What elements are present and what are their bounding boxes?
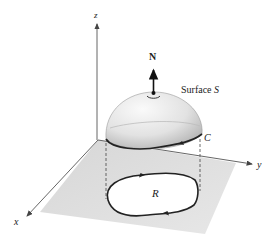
normal-vector-label: N — [149, 51, 157, 62]
surface-label-text: Surface — [181, 84, 214, 95]
region-label: R — [151, 187, 159, 199]
y-axis-label: y — [256, 159, 262, 170]
surface-s — [106, 92, 202, 149]
normal-vector — [152, 70, 156, 95]
surface-label: Surface S — [181, 84, 219, 95]
surface-label-symbol: S — [214, 84, 219, 95]
z-axis-label: z — [93, 10, 98, 20]
curve-label: C — [204, 132, 211, 143]
x-axis-label: x — [13, 216, 19, 227]
stokes-theorem-diagram: x R y z C N Surface S — [0, 0, 280, 236]
